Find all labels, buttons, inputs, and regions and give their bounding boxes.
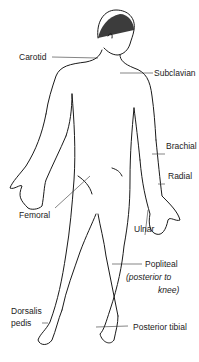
label-femoral: Femoral (19, 210, 50, 220)
label-posterior-tibial: Posterior tibial (133, 322, 187, 332)
label-ulnar: Ulnar (134, 224, 154, 234)
pulse-points-diagram: Carotid Subclavian Brachial Radial Femor… (0, 0, 199, 362)
label-pedis: pedis (11, 318, 31, 328)
label-popliteal-note-1: (posterior to (126, 272, 171, 282)
label-dorsalis: Dorsalis (11, 306, 42, 316)
label-carotid: Carotid (19, 52, 46, 62)
label-subclavian: Subclavian (154, 68, 196, 78)
label-popliteal: Popliteal (145, 259, 178, 269)
label-brachial: Brachial (166, 141, 197, 151)
label-popliteal-note-2: knee) (158, 285, 179, 295)
label-radial: Radial (168, 171, 192, 181)
